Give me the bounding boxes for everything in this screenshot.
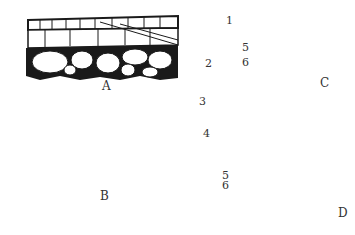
panel-label-c: C bbox=[320, 77, 329, 89]
callout-3: 3 bbox=[199, 96, 206, 108]
callout-2: 2 bbox=[205, 58, 212, 70]
panel-label-a: A bbox=[102, 80, 111, 92]
figure-drawing bbox=[0, 0, 355, 235]
callout-1: 1 bbox=[226, 15, 233, 27]
callout-4: 4 bbox=[203, 128, 210, 140]
plant-tissue-figure: A B C D 1 2 3 4 5 6 5 6 bbox=[0, 0, 355, 235]
panel-label-b: B bbox=[100, 190, 109, 202]
panel-label-d: D bbox=[338, 207, 348, 219]
callout-5-c: 5 bbox=[242, 42, 249, 54]
callout-6-d: 6 bbox=[222, 180, 229, 192]
panel-a-drawing bbox=[26, 16, 178, 80]
callout-6-c: 6 bbox=[242, 57, 249, 69]
